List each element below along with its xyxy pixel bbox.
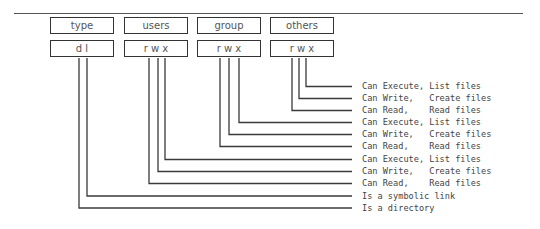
description-others-execute: Can Execute, List files xyxy=(362,81,481,91)
description-others-read: Can Read, Read files xyxy=(362,105,481,115)
description-others-write: Can Write, Create files xyxy=(362,93,491,103)
description-group-read: Can Read, Read files xyxy=(362,141,481,151)
description-users-execute: Can Execute, List files xyxy=(362,154,481,164)
description-users-write: Can Write, Create files xyxy=(362,166,491,176)
description-directory: Is a directory xyxy=(362,203,434,213)
description-symbolic-link: Is a symbolic link xyxy=(362,191,455,201)
description-users-read: Can Read, Read files xyxy=(362,178,481,188)
description-group-write: Can Write, Create files xyxy=(362,129,491,139)
description-group-execute: Can Execute, List files xyxy=(362,117,481,127)
